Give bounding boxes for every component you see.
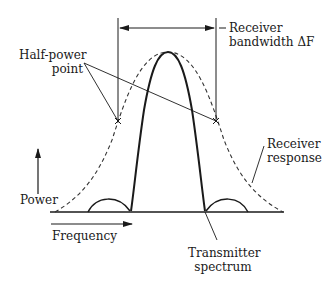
half-power-line2: point <box>19 62 83 76</box>
receiver-response-label: Receiver response <box>267 137 322 165</box>
transmitter-spectrum-line2: spectrum <box>188 260 258 274</box>
receiver-response-curve <box>55 52 283 212</box>
transmitter-right-sidelobe <box>206 199 248 212</box>
power-axis-label: Power <box>20 193 58 207</box>
receiver-response-line1: Receiver <box>267 137 322 151</box>
receiver-bandwidth-line1: Receiver <box>229 21 314 35</box>
frequency-axis-label: Frequency <box>52 229 117 243</box>
half-power-label: Half-power point <box>19 48 83 76</box>
transmitter-spectrum-line1: Transmitter <box>188 246 258 260</box>
half-power-leader-left <box>84 63 118 121</box>
transmitter-left-sidelobe <box>88 199 130 212</box>
receiver-bandwidth-line2: bandwidth ΔF <box>229 35 314 49</box>
frequency-axis-text: Frequency <box>52 229 117 243</box>
transmitter-spectrum-leader <box>205 212 217 240</box>
power-axis-text: Power <box>20 193 58 207</box>
receiver-response-line2: response <box>267 151 322 165</box>
transmitter-main-lobe <box>131 52 205 211</box>
receiver-response-leader <box>252 146 264 183</box>
half-power-line1: Half-power <box>19 48 83 62</box>
transmitter-spectrum-label: Transmitter spectrum <box>188 246 258 274</box>
receiver-bandwidth-label: Receiver bandwidth ΔF <box>229 21 314 49</box>
